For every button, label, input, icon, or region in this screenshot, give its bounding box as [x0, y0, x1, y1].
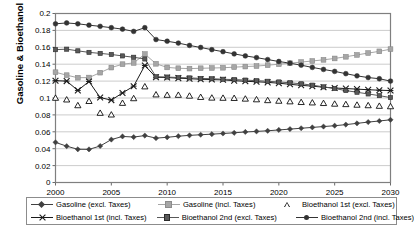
legend-label: Bioethanol 2nd (incl. Taxes) — [321, 213, 414, 222]
chart-legend: Gasoline (excl. Taxes) Gasoline (incl. T… — [26, 197, 397, 225]
y-axis-tick-label: 0.04 — [35, 145, 51, 154]
series-markers — [53, 117, 393, 152]
legend-marker-diamond-icon — [31, 199, 53, 210]
series-line — [56, 49, 391, 97]
x-axis-tick-label: 2010 — [158, 188, 176, 197]
legend-item-bioethanol-2nd-incl-taxes[interactable]: Bioethanol 2nd (incl. Taxes) — [296, 211, 396, 224]
legend-item-bioethanol-2nd-excl-taxes[interactable]: Bioethanol 2nd (excl. Taxes) — [157, 211, 296, 224]
legend-row-2: Bioethanol 1st (incl. Taxes) Bioethanol … — [27, 211, 396, 224]
x-axis-tick-label: 2020 — [270, 188, 288, 197]
x-axis-tick-label: 2005 — [102, 188, 120, 197]
x-axis-tick-label: 2015 — [214, 188, 232, 197]
legend-item-gasoline-incl-taxes[interactable]: Gasoline (incl. Taxes) — [158, 198, 277, 211]
legend-item-bioethanol-1st-incl-taxes[interactable]: Bioethanol 1st (incl. Taxes) — [27, 211, 157, 224]
legend-row-1: Gasoline (excl. Taxes) Gasoline (incl. T… — [27, 198, 396, 211]
legend-label: Bioethanol 1st (excl. Taxes) — [302, 200, 395, 209]
y-axis-tick-label: 0.1 — [39, 94, 51, 103]
x-axis-tick-label: 2025 — [326, 188, 344, 197]
y-axis-tick-label: 0.14 — [35, 60, 51, 69]
legend-label: Gasoline (incl. Taxes) — [183, 200, 255, 209]
y-axis-tick-label: 0.08 — [35, 111, 51, 120]
legend-marker-square-small-icon — [157, 212, 179, 223]
y-axis-tick-label: 0.2 — [39, 9, 51, 18]
y-axis-tick-label: 0.18 — [35, 26, 51, 35]
legend-marker-star-x-icon — [31, 212, 53, 223]
legend-label: Bioethanol 2nd (excl. Taxes) — [182, 213, 277, 222]
legend-marker-triangle-icon — [277, 199, 299, 210]
legend-label: Bioethanol 1st (incl. Taxes) — [56, 213, 147, 222]
y-axis-tick-label: 0 — [46, 178, 51, 187]
legend-marker-circle-icon — [296, 212, 318, 223]
series-markers — [53, 47, 392, 100]
x-axis-tick-label: 2030 — [382, 188, 400, 197]
y-axis-tick-label: 0.12 — [35, 77, 51, 86]
y-axis-tick-label: 0.16 — [35, 43, 51, 52]
legend-item-bioethanol-1st-excl-taxes[interactable]: Bioethanol 1st (excl. Taxes) — [277, 198, 396, 211]
y-axis-tick-label: 0.06 — [35, 128, 51, 137]
legend-label: Gasoline (excl. Taxes) — [56, 200, 131, 209]
legend-item-gasoline-excl-taxes[interactable]: Gasoline (excl. Taxes) — [27, 198, 158, 211]
y-axis-tick-label: 0.02 — [35, 162, 51, 171]
legend-marker-square-icon — [158, 199, 180, 210]
x-axis-tick-label: 2000 — [47, 188, 65, 197]
